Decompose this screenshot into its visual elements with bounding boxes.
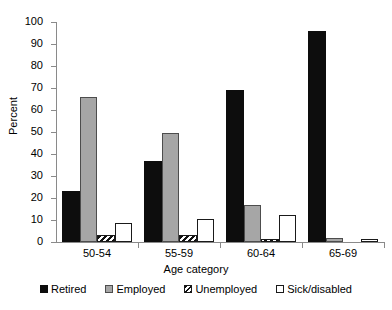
legend-item-retired[interactable]: Retired — [40, 283, 86, 295]
y-axis-tick: 30 — [51, 176, 56, 177]
y-axis-tick-label: 60 — [31, 103, 43, 115]
y-axis-tick: 20 — [51, 198, 56, 199]
y-axis-tick-label: 70 — [31, 81, 43, 93]
y-axis-tick: 70 — [51, 88, 56, 89]
y-axis-tick-label: 30 — [31, 169, 43, 181]
bar-employed-55-59 — [162, 133, 180, 242]
bar-retired-55-59 — [144, 161, 162, 242]
bar-sick-disabled-65-69 — [361, 239, 379, 242]
y-axis-tick-label: 0 — [37, 235, 43, 247]
bar-retired-50-54 — [62, 191, 80, 242]
x-axis-category-label: 60-64 — [220, 247, 302, 259]
bar-employed-65-69 — [326, 238, 344, 242]
bar-unemployed-55-59 — [179, 235, 197, 242]
y-axis-tick: 40 — [51, 154, 56, 155]
bar-retired-60-64 — [226, 90, 244, 242]
y-axis-line — [56, 22, 57, 243]
bar-employed-60-64 — [244, 205, 262, 242]
legend-item-label: Sick/disabled — [287, 283, 352, 295]
y-axis-tick-label: 100 — [25, 15, 43, 27]
bar-retired-65-69 — [308, 31, 326, 242]
plot-area: 0102030405060708090100 — [56, 22, 384, 242]
x-axis-title: Age category — [0, 263, 392, 275]
y-axis-tick-label: 20 — [31, 191, 43, 203]
legend-swatch-icon — [40, 285, 48, 293]
y-axis-tick: 0 — [51, 242, 56, 243]
legend-item-label: Employed — [116, 283, 165, 295]
x-axis-category-label: 55-59 — [138, 247, 220, 259]
bar-sick-disabled-50-54 — [115, 223, 133, 242]
y-axis-tick: 90 — [51, 44, 56, 45]
y-axis-tick: 60 — [51, 110, 56, 111]
legend-item-label: Retired — [51, 283, 86, 295]
y-axis-tick-label: 80 — [31, 59, 43, 71]
x-axis-category-label: 50-54 — [56, 247, 138, 259]
bar-unemployed-50-54 — [97, 235, 115, 242]
legend-swatch-icon — [105, 285, 113, 293]
legend-swatch-icon — [276, 285, 284, 293]
bar-sick-disabled-60-64 — [279, 215, 297, 243]
bar-chart: Percent 0102030405060708090100 Age categ… — [0, 0, 392, 310]
x-axis-category-label: 65-69 — [302, 247, 384, 259]
y-axis-tick-label: 90 — [31, 37, 43, 49]
legend-item-label: Unemployed — [195, 283, 257, 295]
y-axis-tick-label: 40 — [31, 147, 43, 159]
legend-item-unemployed[interactable]: Unemployed — [184, 283, 257, 295]
y-axis-tick: 10 — [51, 220, 56, 221]
y-axis-tick: 50 — [51, 132, 56, 133]
bar-unemployed-60-64 — [261, 239, 279, 242]
y-axis-tick: 100 — [51, 22, 56, 23]
chart-legend: RetiredEmployedUnemployedSick/disabled — [0, 283, 392, 295]
y-axis-tick: 80 — [51, 66, 56, 67]
bar-employed-50-54 — [80, 97, 98, 242]
bar-sick-disabled-55-59 — [197, 219, 215, 242]
x-axis-tick — [384, 243, 385, 248]
legend-swatch-icon — [184, 285, 192, 293]
y-axis-tick-label: 10 — [31, 213, 43, 225]
y-axis-title: Percent — [7, 76, 19, 156]
legend-item-sick-disabled[interactable]: Sick/disabled — [276, 283, 352, 295]
legend-item-employed[interactable]: Employed — [105, 283, 165, 295]
y-axis-tick-label: 50 — [31, 125, 43, 137]
